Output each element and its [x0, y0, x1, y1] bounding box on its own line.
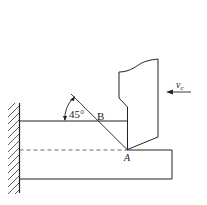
cutting-velocity-arrow	[166, 90, 191, 95]
fixed-wall-hatching	[8, 99, 19, 201]
velocity-label-sub: c	[180, 84, 184, 92]
cutting-tool	[119, 59, 158, 150]
velocity-label: vc	[176, 79, 184, 92]
angle-arrow-icon	[63, 116, 67, 121]
point-a-label: A	[123, 152, 131, 163]
shear-plane-line	[71, 94, 128, 150]
angle-label: 45°	[69, 108, 84, 120]
arrow-left-icon	[166, 90, 173, 95]
cutting-diagram: 45° B A vc	[0, 0, 207, 205]
point-b-label: B	[97, 110, 104, 122]
